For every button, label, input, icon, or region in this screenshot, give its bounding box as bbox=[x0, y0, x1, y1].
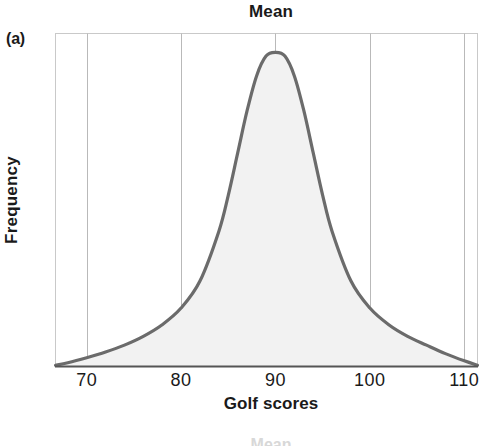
x-tick-label-80: 80 bbox=[171, 370, 192, 391]
x-tick-label-70: 70 bbox=[76, 370, 97, 391]
figure-panel-a: (a) Mean Frequency Golf scores 708090100… bbox=[0, 0, 490, 446]
x-tick-label-110: 110 bbox=[449, 370, 479, 391]
next-panel-title-artifact: Mean bbox=[251, 436, 292, 446]
x-tick-label-90: 90 bbox=[265, 370, 286, 391]
distribution-plot bbox=[0, 0, 490, 446]
x-tick-label-100: 100 bbox=[354, 370, 386, 391]
distribution-area-fill bbox=[56, 52, 478, 366]
